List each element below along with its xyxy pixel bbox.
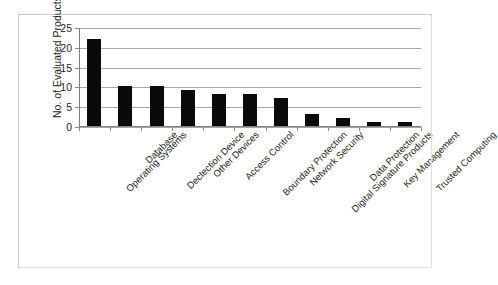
x-tick-mark — [421, 127, 422, 131]
bar — [87, 39, 101, 126]
x-category-label: Operating Systems — [124, 129, 189, 194]
bar — [305, 114, 319, 126]
x-axis-category-labels: Operating SystemsDatabaseDectection Devi… — [79, 129, 421, 259]
bar — [336, 118, 350, 126]
bar — [150, 86, 164, 126]
gridline — [79, 68, 421, 69]
y-tick-label: 10 — [60, 81, 72, 93]
y-tick-label: 0 — [66, 121, 72, 133]
chart-figure: No. of Evaluated Products 2520151050 Ope… — [18, 14, 432, 268]
y-tick-label: 25 — [60, 22, 72, 34]
gridline — [79, 127, 421, 128]
gridline — [79, 28, 421, 29]
y-tick-label: 20 — [60, 42, 72, 54]
gridline — [79, 48, 421, 49]
bar — [274, 98, 288, 126]
plot-area: 2520151050 — [79, 28, 421, 127]
y-axis-line — [79, 28, 80, 127]
bar — [243, 94, 257, 126]
bar — [212, 94, 226, 126]
bar — [118, 86, 132, 126]
y-tick-label: 5 — [66, 101, 72, 113]
x-axis-line — [79, 126, 421, 127]
y-tick-label: 15 — [60, 62, 72, 74]
bar — [181, 90, 195, 126]
